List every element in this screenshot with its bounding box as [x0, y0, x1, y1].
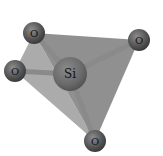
o-label: O	[30, 28, 38, 39]
o-atom-right: O	[128, 29, 150, 51]
o-atom-top-left: O	[23, 22, 45, 44]
o-label: O	[11, 66, 19, 77]
sio4-tetrahedron-diagram: Si O O O O	[0, 0, 163, 156]
o-atom-left: O	[4, 60, 26, 82]
si-label: Si	[64, 67, 76, 81]
o-atom-bottom: O	[84, 130, 106, 152]
o-label: O	[91, 136, 99, 147]
si-atom: Si	[53, 57, 87, 91]
o-label: O	[135, 35, 143, 46]
